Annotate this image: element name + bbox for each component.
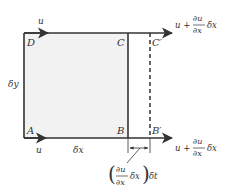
width-label-dx: δx — [73, 145, 84, 155]
vertex-label-Bprime: B′ — [151, 125, 162, 136]
displacement-expression: ( ∂u ∂x δx ) δt — [108, 162, 158, 187]
top-delta-x: δx — [207, 20, 217, 30]
bottom-right-velocity-expression: u + ∂u ∂x δx — [175, 137, 217, 158]
vertex-label-A: A — [26, 125, 34, 136]
disp-delta-x: δx — [130, 171, 140, 181]
top-right-velocity-expression: u + ∂u ∂x δx — [175, 14, 217, 35]
leader-line — [127, 148, 140, 163]
vertex-label-D: D — [26, 37, 35, 48]
vertex-label-Cprime: C′ — [152, 37, 163, 48]
vertex-label-B: B — [116, 125, 124, 136]
bottom-u-plus: u + — [175, 143, 190, 153]
disp-delta-t: δt — [149, 171, 158, 181]
top-u-plus: u + — [175, 20, 190, 30]
height-label-dy: δy — [8, 79, 19, 89]
bottom-partial-num: ∂u — [193, 137, 202, 146]
bottom-partial-den: ∂x — [193, 149, 202, 158]
top-partial-num: ∂u — [193, 14, 202, 23]
bottom-delta-x: δx — [207, 143, 217, 153]
u-label-top: u — [38, 16, 44, 26]
fluid-element-diagram: D C C′ A B B′ u u δy δx u + ∂u ∂x δx u +… — [0, 0, 227, 196]
disp-partial-num: ∂u — [116, 165, 125, 174]
disp-open-paren: ( — [108, 162, 116, 186]
fluid-element-square — [24, 33, 128, 138]
vertex-label-C: C — [117, 37, 125, 48]
u-label-bottom: u — [36, 145, 42, 155]
disp-partial-den: ∂x — [116, 178, 125, 187]
top-partial-den: ∂x — [193, 26, 202, 35]
